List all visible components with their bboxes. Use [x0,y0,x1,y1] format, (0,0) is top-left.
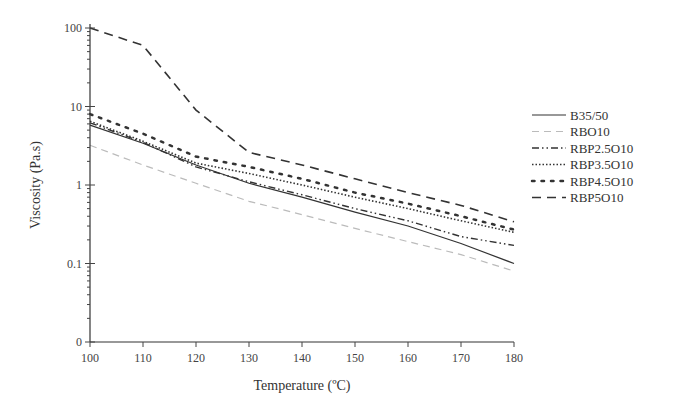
viscosity-chart: 00.1110100100110120130140150160170180 B3… [0,0,673,413]
x-tick-label: 180 [505,351,523,365]
series-line-rbo10 [90,145,514,271]
y-axis-title: Viscosity (Pa.s) [28,141,44,229]
x-tick-label: 100 [81,351,99,365]
x-tick-label: 140 [293,351,311,365]
legend: B35/50RBO10RBP2.5O10RBP3.5O10RBP4.5O10RB… [532,108,633,206]
x-tick-label: 170 [452,351,470,365]
y-tick-label: 0 [76,335,82,349]
legend-label: RBP3.5O10 [570,157,633,172]
legend-label: RBO10 [570,124,610,139]
x-axis-title: Temperature (ºC) [253,378,350,394]
y-tick-label: 10 [70,100,82,114]
y-tick-label: 0.1 [67,257,82,271]
series-line-rbp4-5o10 [90,114,514,230]
legend-label: RBP2.5O10 [570,141,633,156]
y-tick-label: 1 [76,178,82,192]
x-tick-label: 120 [187,351,205,365]
legend-label: RBP4.5O10 [570,174,633,189]
legend-label: RBP5O10 [570,190,623,205]
legend-label: B35/50 [570,108,608,123]
x-tick-label: 110 [134,351,152,365]
x-tick-label: 160 [399,351,417,365]
series-line-rbp5o10 [90,28,514,222]
x-tick-label: 130 [240,351,258,365]
series-line-rbp2-5o10 [90,123,514,246]
x-tick-label: 150 [346,351,364,365]
plot-area [90,28,514,271]
y-tick-label: 100 [64,21,82,35]
